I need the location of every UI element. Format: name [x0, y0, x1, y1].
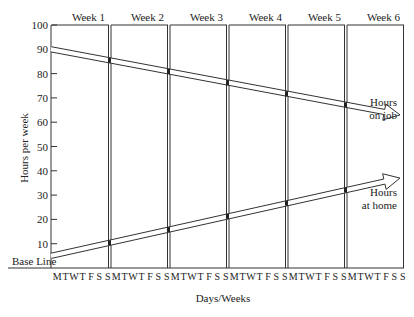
week-end-marker — [226, 80, 229, 85]
day-label: W — [364, 271, 374, 282]
day-label: T — [122, 271, 128, 282]
day-label: F — [265, 271, 271, 282]
day-label: T — [299, 271, 305, 282]
day-label: F — [383, 271, 389, 282]
week-end-marker — [108, 58, 111, 63]
week-label: Week 6 — [367, 11, 401, 23]
day-label: T — [374, 271, 380, 282]
week-end-marker — [285, 91, 288, 96]
day-label: F — [147, 271, 153, 282]
y-axis-label: Hours per week — [18, 113, 30, 183]
day-label: T — [63, 271, 69, 282]
series-arrows: Hourson jobHoursat home — [50, 47, 400, 259]
day-label: T — [79, 271, 85, 282]
day-label: S — [105, 271, 111, 282]
day-label: T — [197, 271, 203, 282]
y-tick-label: 30 — [37, 189, 49, 201]
day-labels: MTWTFSSMTWTFSSMTWTFSSMTWTFSSMTWTFSSMTWTF… — [53, 271, 406, 282]
day-label: F — [324, 271, 330, 282]
day-label: M — [112, 271, 121, 282]
y-tick-label: 90 — [37, 43, 49, 55]
week-label: Week 1 — [72, 11, 105, 23]
y-tick-label: 20 — [37, 213, 49, 225]
y-tick-label: 60 — [37, 116, 49, 128]
day-label: S — [164, 271, 170, 282]
day-label: T — [240, 271, 246, 282]
y-tick-label: 100 — [32, 19, 49, 31]
day-label: S — [223, 271, 229, 282]
day-label: S — [400, 271, 406, 282]
week-end-marker — [108, 240, 111, 245]
week-end-marker — [167, 227, 170, 232]
y-tick-label: 40 — [37, 165, 49, 177]
y-tick-label: 10 — [37, 238, 49, 250]
hours-at-home-arrow — [50, 174, 400, 259]
day-label: T — [256, 271, 262, 282]
x-axis-label: Days/Weeks — [196, 292, 251, 304]
day-label: M — [171, 271, 180, 282]
hours-on-job-label: on job — [369, 109, 397, 121]
week-label: Week 5 — [308, 11, 342, 23]
day-label: T — [358, 271, 364, 282]
day-label: F — [88, 271, 94, 282]
day-label: T — [315, 271, 321, 282]
day-label: M — [348, 271, 357, 282]
day-label: W — [305, 271, 315, 282]
week-label: Week 4 — [249, 11, 283, 23]
hours-on-job-label: Hours — [370, 96, 397, 108]
day-label: S — [392, 271, 398, 282]
week-end-marker — [167, 69, 170, 74]
hours-chart: Week 1Week 2Week 3Week 4Week 5Week 6 102… — [0, 0, 414, 317]
day-label: M — [53, 271, 62, 282]
day-label: M — [230, 271, 239, 282]
day-label: S — [97, 271, 103, 282]
day-label: F — [206, 271, 212, 282]
hours-on-job-arrow — [51, 47, 400, 120]
day-label: S — [341, 271, 347, 282]
y-ticks: 102030405060708090100 — [32, 19, 58, 250]
week-columns: Week 1Week 2Week 3Week 4Week 5Week 6 — [52, 11, 404, 268]
week-end-marker — [285, 201, 288, 206]
day-label: S — [156, 271, 162, 282]
week-end-marker — [226, 214, 229, 219]
hours-at-home-label: Hours — [370, 186, 397, 198]
day-label: S — [282, 271, 288, 282]
y-tick-label: 70 — [37, 92, 49, 104]
week-end-marker — [344, 188, 347, 193]
week-label: Week 2 — [131, 11, 164, 23]
y-tick-label: 50 — [37, 141, 49, 153]
base-line-label: Base Line — [12, 255, 56, 267]
day-label: W — [69, 271, 79, 282]
week-end-marker — [344, 102, 347, 107]
y-tick-label: 80 — [37, 68, 49, 80]
day-label: S — [333, 271, 339, 282]
day-label: W — [128, 271, 138, 282]
day-label: W — [187, 271, 197, 282]
day-label: T — [138, 271, 144, 282]
day-label: T — [181, 271, 187, 282]
day-label: W — [246, 271, 256, 282]
hours-at-home-label: at home — [362, 199, 397, 211]
week-label: Week 3 — [190, 11, 224, 23]
day-label: S — [215, 271, 221, 282]
day-label: S — [274, 271, 280, 282]
day-label: M — [289, 271, 298, 282]
